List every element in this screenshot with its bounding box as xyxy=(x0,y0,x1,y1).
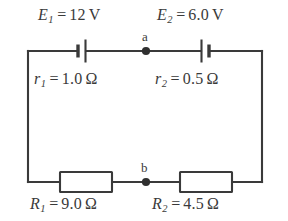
label-emf-e2-symbol: E xyxy=(157,6,167,23)
battery-symbol-e1 xyxy=(78,40,86,63)
label-emf-e2-value: 6.0 xyxy=(188,6,209,23)
label-resistor-r1-subscript: 1 xyxy=(40,203,45,214)
label-resistor-r2-subscript: 2 xyxy=(162,203,167,214)
label-emf-e2-subscript: 2 xyxy=(167,14,172,25)
label-internal-resistance-r1-subscript: 1 xyxy=(41,78,46,89)
label-internal-resistance-r2-symbol: r xyxy=(155,70,161,87)
label-emf-e1-subscript: 1 xyxy=(48,14,53,25)
label-internal-resistance-r2-unit: Ω xyxy=(206,70,218,87)
label-resistor-r2-equals: = xyxy=(171,195,180,212)
label-internal-resistance-r1-unit: Ω xyxy=(85,70,97,87)
junction-dot-b xyxy=(142,178,150,186)
label-emf-e1-unit: V xyxy=(89,6,101,23)
label-internal-resistance-r2-equals: = xyxy=(171,70,180,87)
node-label-a: a xyxy=(142,30,148,43)
label-emf-e2-equals: = xyxy=(176,6,185,23)
label-internal-resistance-r2-subscript: 2 xyxy=(162,78,167,89)
circuit-diagram: E1=12V E2=6.0V r1=1.0Ω r2=0.5Ω R1=9.0Ω R… xyxy=(0,0,288,221)
label-resistor-r2-value: 4.5 xyxy=(183,195,204,212)
label-internal-resistance-r1-equals: = xyxy=(50,70,59,87)
label-emf-e1-value: 12 xyxy=(69,6,85,23)
label-resistor-r1-symbol: R xyxy=(30,195,40,212)
battery-symbol-e2 xyxy=(202,40,210,63)
resistor-symbol-r1 xyxy=(60,172,112,192)
label-internal-resistance-r1: r1=1.0Ω xyxy=(34,71,98,89)
label-resistor-r2-symbol: R xyxy=(152,195,162,212)
label-emf-e1: E1=12V xyxy=(38,7,101,25)
node-label-b: b xyxy=(141,161,148,174)
label-emf-e1-equals: = xyxy=(57,6,66,23)
label-internal-resistance-r2-value: 0.5 xyxy=(183,70,204,87)
label-resistor-r2-unit: Ω xyxy=(207,195,219,212)
label-resistor-r1-equals: = xyxy=(49,195,58,212)
label-emf-e2: E2=6.0V xyxy=(157,7,224,25)
label-internal-resistance-r1-value: 1.0 xyxy=(62,70,83,87)
label-internal-resistance-r1-symbol: r xyxy=(34,70,40,87)
resistor-symbol-r2 xyxy=(180,172,232,192)
label-emf-e1-symbol: E xyxy=(38,6,48,23)
junction-dot-a xyxy=(142,47,150,55)
label-resistor-r1-unit: Ω xyxy=(85,195,97,212)
label-internal-resistance-r2: r2=0.5Ω xyxy=(155,71,219,89)
label-resistor-r1-value: 9.0 xyxy=(61,195,82,212)
label-emf-e2-unit: V xyxy=(212,6,224,23)
label-resistor-r1: R1=9.0Ω xyxy=(30,196,97,214)
label-resistor-r2: R2=4.5Ω xyxy=(152,196,219,214)
